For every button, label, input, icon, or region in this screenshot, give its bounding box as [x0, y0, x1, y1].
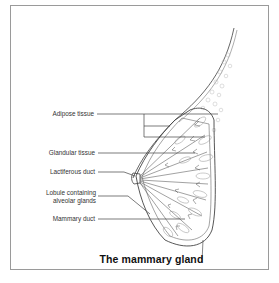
label-lobule-line1: Lobule containing [46, 189, 96, 197]
diagram-title: The mammary gland [0, 253, 279, 265]
label-lobule-line2: alveolar glands [53, 197, 96, 205]
mammary-gland-illustration [0, 0, 279, 283]
label-lactiferous-duct: Lactiferous duct [50, 168, 95, 176]
label-adipose-tissue: Adipose tissue [52, 110, 94, 118]
label-mammary-duct: Mammary duct [53, 215, 95, 223]
label-glandular-tissue: Glandular tissue [49, 149, 95, 157]
